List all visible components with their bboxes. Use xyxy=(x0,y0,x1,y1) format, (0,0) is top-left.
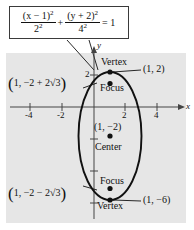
label-vertex-top: Vertex xyxy=(101,57,127,67)
label-focus-top-coords: (1, −2 + 2√3) xyxy=(8,78,66,88)
x-axis-arrow xyxy=(178,104,185,110)
label-center: Center xyxy=(95,142,122,152)
leader-to-point-1-2 xyxy=(113,70,141,72)
x-tick-label--4: -4 xyxy=(25,110,33,120)
left-bottom-radical: √3 xyxy=(50,187,61,198)
label-point-1-2: (1, 2) xyxy=(143,64,165,74)
y-tick-label-2: 2 xyxy=(85,69,90,79)
left-top-close-paren: ) xyxy=(60,74,66,93)
leader-lines-from-box xyxy=(67,40,98,70)
x-tick-label--2: -2 xyxy=(57,110,65,120)
x-tick-label-2: 2 xyxy=(122,110,127,120)
left-bottom-close-paren: ) xyxy=(60,184,66,203)
focus-bottom-dot xyxy=(107,186,112,191)
label-focus-bottom-coords: (1, −2 − 2√3) xyxy=(8,188,66,198)
vertex-top-dot xyxy=(107,69,112,74)
label-vertex-bottom: Vertex xyxy=(97,201,123,211)
center-dot xyxy=(107,133,112,138)
ellipse-figure: (x − 1)2 22 + (y + 2)2 42 = 1 xyxy=(0,0,194,230)
left-bottom-coord-text: 1, −2 − 2 xyxy=(14,187,50,198)
x-tick-label-4: 4 xyxy=(154,110,159,120)
label-center-coords: (1, −2) xyxy=(94,122,121,132)
label-point-1--6: (1, −6) xyxy=(143,195,170,205)
label-focus-top: Focus xyxy=(100,83,124,93)
label-focus-bottom: Focus xyxy=(100,176,124,186)
x-axis-label: x xyxy=(186,101,190,111)
left-top-coord-text: 1, −2 + 2 xyxy=(14,77,50,88)
left-top-radical: √3 xyxy=(50,77,61,88)
y-axis-label: y xyxy=(97,40,101,50)
